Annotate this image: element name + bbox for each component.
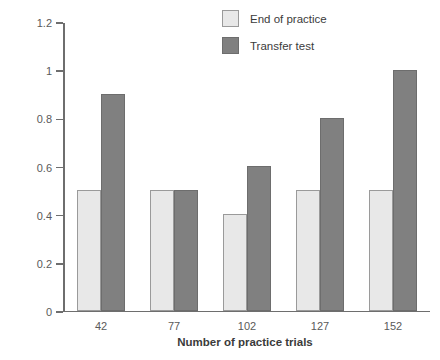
legend-label: End of practice (250, 13, 327, 25)
bar (393, 70, 417, 311)
x-tick-label: 77 (168, 320, 180, 332)
x-tick-label: 127 (311, 320, 329, 332)
bar (320, 118, 344, 311)
bar (77, 190, 101, 310)
bar-group (296, 23, 344, 311)
bar-chart-figure: Absolute error (in.) Number of practice … (0, 0, 440, 360)
x-axis-line (63, 311, 430, 313)
y-tick-mark (56, 22, 63, 24)
y-tick-mark (56, 119, 63, 121)
y-tick-mark (56, 263, 63, 265)
bar-series-container (65, 23, 429, 311)
x-tick-label: 42 (95, 320, 107, 332)
bar (296, 190, 320, 310)
legend-label: Transfer test (250, 40, 314, 52)
bar (101, 94, 125, 311)
x-tick-label: 102 (238, 320, 256, 332)
bar-group (223, 23, 271, 311)
bar (150, 190, 174, 310)
x-tick-label: 152 (384, 320, 402, 332)
y-tick-mark (56, 215, 63, 217)
bar (247, 166, 271, 311)
y-tick-label: 0.8 (37, 113, 52, 125)
bar (369, 190, 393, 310)
y-tick-label: 0.6 (37, 162, 52, 174)
y-tick-mark (56, 311, 63, 313)
legend-swatch-icon (222, 37, 239, 54)
y-tick-label: 1.2 (37, 17, 52, 29)
y-tick-label: 1 (46, 65, 52, 77)
plot-area: 00.20.40.60.811.2 4277102127152 (63, 23, 428, 312)
y-tick-label: 0.4 (37, 210, 52, 222)
legend-item: End of practice (222, 10, 327, 27)
bar-group (369, 23, 417, 311)
x-axis-title: Number of practice trials (60, 336, 430, 348)
bar (223, 214, 247, 310)
legend-swatch-icon (222, 10, 239, 27)
y-tick-mark (56, 70, 63, 72)
bar (174, 190, 198, 310)
y-tick-label: 0.2 (37, 258, 52, 270)
y-tick-mark (56, 167, 63, 169)
bar-group (150, 23, 198, 311)
legend-item: Transfer test (222, 37, 327, 54)
bar-group (77, 23, 125, 311)
chart-legend: End of practiceTransfer test (222, 10, 327, 64)
y-tick-label: 0 (46, 306, 52, 318)
